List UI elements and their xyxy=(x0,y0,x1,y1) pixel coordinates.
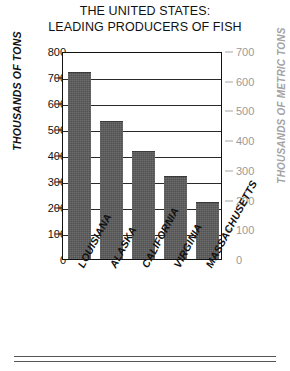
y2-tick-label-0: 0 xyxy=(236,254,270,266)
chart-title-line-2: LEADING PRODUCERS OF FISH xyxy=(0,19,290,35)
y2-tick-label-600: 600 xyxy=(236,76,270,88)
y2-tick-label-700: 700 xyxy=(236,46,270,58)
chart-title: THE UNITED STATES: LEADING PRODUCERS OF … xyxy=(0,3,290,35)
y-axis-label: THOUSANDS OF TONS xyxy=(11,16,23,166)
footer-rule-bottom xyxy=(14,361,276,362)
y-tick-mark-400 xyxy=(55,156,62,157)
bar-louisiana xyxy=(68,72,91,259)
bar-alaska xyxy=(100,121,123,259)
y-tick-mark-200 xyxy=(55,208,62,209)
y2-tick-label-400: 400 xyxy=(236,135,270,147)
y2-tick-label-500: 500 xyxy=(236,105,270,117)
y-tick-mark-300 xyxy=(55,182,62,183)
y2-tick-mark-400 xyxy=(225,141,233,142)
y-tick-mark-600 xyxy=(55,104,62,105)
chart-title-line-1: THE UNITED STATES: xyxy=(0,3,290,19)
y2-tick-label-100: 100 xyxy=(236,224,270,236)
y2-tick-label-300: 300 xyxy=(236,165,270,177)
y2-tick-mark-500 xyxy=(225,111,233,112)
y-tick-mark-700 xyxy=(55,78,62,79)
y2-tick-mark-700 xyxy=(225,52,233,53)
y2-tick-mark-600 xyxy=(225,81,233,82)
y2-tick-mark-300 xyxy=(225,170,233,171)
y-tick-mark-100 xyxy=(55,234,62,235)
y-tick-mark-500 xyxy=(55,130,62,131)
y2-tick-mark-200 xyxy=(225,200,233,201)
footer-rule-top xyxy=(14,356,276,357)
secondary-y-axis-label: THOUSANDS OF METRIC TONS xyxy=(276,21,287,191)
